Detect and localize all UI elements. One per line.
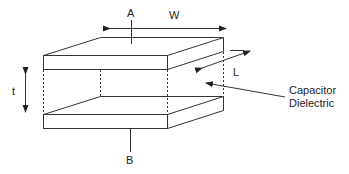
label-l: L (233, 66, 239, 78)
dielectric-leader (206, 83, 285, 97)
length-arrow (202, 51, 250, 68)
capacitor-diagram: A W L t B Capacitor Dielectric (0, 0, 349, 174)
label-dielectric-1: Capacitor (289, 84, 336, 96)
bottom-plate (44, 97, 224, 129)
label-dielectric-2: Dielectric (289, 97, 334, 109)
label-b: B (126, 154, 133, 166)
top-plate (44, 38, 224, 70)
label-w: W (169, 9, 179, 21)
label-t: t (12, 85, 15, 97)
label-a: A (127, 7, 134, 19)
